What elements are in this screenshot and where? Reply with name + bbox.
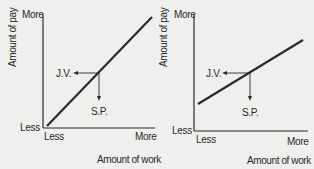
left-jv-arrowhead-icon xyxy=(73,71,78,75)
right-chart: Amount of pay More Less Less More Amount… xyxy=(158,7,312,166)
left-y-tick-less: Less xyxy=(20,122,40,133)
left-y-axis-title: Amount of pay xyxy=(7,7,18,67)
right-y-tick-less: Less xyxy=(172,125,192,136)
left-sp-label: S.P. xyxy=(91,106,107,117)
right-y-tick-more: More xyxy=(174,9,196,20)
left-y-tick-more: More xyxy=(22,9,44,20)
left-chart: Amount of pay More Less Less More Amount… xyxy=(7,7,162,165)
left-jv-label: J.V. xyxy=(56,68,71,79)
left-x-tick-less: Less xyxy=(44,131,64,142)
right-x-tick-less: Less xyxy=(196,134,216,145)
right-jv-arrowhead-icon xyxy=(222,71,227,75)
right-x-tick-more: More xyxy=(287,136,309,147)
left-sp-arrowhead-icon xyxy=(97,96,101,101)
right-y-axis-title: Amount of pay xyxy=(158,7,169,67)
right-x-axis-title: Amount of work xyxy=(247,155,312,166)
right-sp-label: S.P. xyxy=(242,107,258,118)
right-jv-label: J.V. xyxy=(206,68,221,79)
diagram-canvas: Amount of pay More Less Less More Amount… xyxy=(0,0,314,169)
left-x-axis-title: Amount of work xyxy=(97,154,162,165)
left-x-tick-more: More xyxy=(135,131,157,142)
right-sp-arrowhead-icon xyxy=(248,96,252,101)
